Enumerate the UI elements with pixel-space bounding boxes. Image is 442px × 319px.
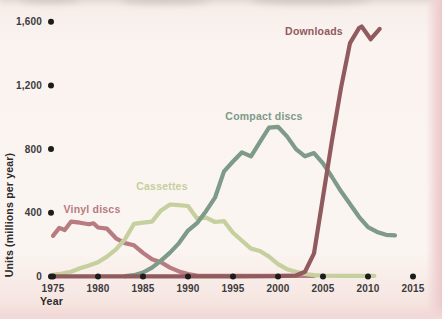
- x-tick-dot: [275, 274, 281, 280]
- x-tick-label: 2005: [311, 283, 334, 294]
- series-line-vinyl-discs: [53, 222, 314, 276]
- x-tick-label: 1995: [221, 283, 244, 294]
- series-line-cassettes: [53, 205, 374, 276]
- y-tick-dot: [48, 82, 54, 88]
- y-tick-dot: [48, 146, 54, 152]
- x-tick-label: 1975: [41, 283, 64, 294]
- x-tick-dot: [50, 274, 56, 280]
- x-tick-label: 1985: [131, 283, 154, 294]
- x-tick-dot: [410, 274, 416, 280]
- y-axis-title: Units (millions per year): [3, 153, 15, 278]
- x-tick-label: 2000: [266, 283, 289, 294]
- series-line-downloads: [53, 27, 380, 277]
- x-tick-dot: [320, 274, 326, 280]
- music-format-sales-chart: 04008001,2001,60019751980198519901995200…: [0, 0, 442, 319]
- series-label-vinyl-discs: Vinyl discs: [64, 203, 121, 215]
- y-tick-label: 800: [25, 144, 43, 155]
- y-tick-label: 400: [25, 207, 43, 218]
- series-line-compact-discs: [125, 127, 395, 276]
- x-tick-label: 1990: [176, 283, 199, 294]
- x-tick-label: 2015: [401, 283, 424, 294]
- series-label-downloads: Downloads: [285, 25, 343, 37]
- x-tick-dot: [230, 274, 236, 280]
- x-tick-dot: [140, 274, 146, 280]
- series-label-compact-discs: Compact discs: [225, 110, 302, 122]
- y-tick-label: 1,200: [16, 80, 42, 91]
- y-tick-label: 0: [36, 271, 42, 282]
- x-tick-dot: [365, 274, 371, 280]
- chart-canvas: 04008001,2001,60019751980198519901995200…: [0, 0, 442, 319]
- series-label-cassettes: Cassettes: [136, 180, 187, 192]
- page-edge-right: [426, 0, 442, 319]
- y-tick-dot: [48, 210, 54, 216]
- y-tick-label: 1,600: [16, 16, 42, 27]
- x-tick-dot: [95, 274, 101, 280]
- x-tick-label: 1980: [86, 283, 109, 294]
- x-tick-dot: [185, 274, 191, 280]
- page-edge-bottom: [0, 305, 442, 319]
- scanned-textbook-page: 04008001,2001,60019751980198519901995200…: [0, 0, 442, 319]
- x-tick-label: 2010: [356, 283, 379, 294]
- y-tick-dot: [48, 19, 54, 25]
